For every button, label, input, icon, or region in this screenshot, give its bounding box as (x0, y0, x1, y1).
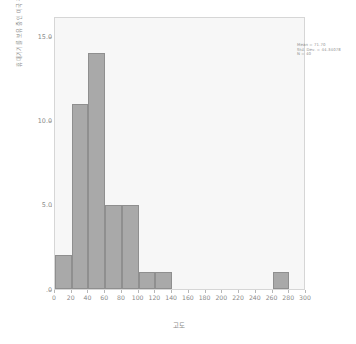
histogram-bar (88, 53, 105, 289)
histogram-chart: 휴대기기를 보유 중인 미국 청소년 수 .05.010.015.0 02040… (0, 0, 356, 344)
x-axis-ticks: 0204060801001201401601802002202402602803… (54, 290, 305, 310)
x-tick-mark (138, 290, 139, 293)
bars-layer (55, 18, 304, 289)
x-tick-label: 280 (282, 294, 294, 302)
x-tick-mark (305, 290, 306, 293)
x-tick-label: 240 (249, 294, 261, 302)
x-tick-label: 40 (84, 294, 92, 302)
x-tick-label: 100 (132, 294, 144, 302)
x-tick-mark (288, 290, 289, 293)
histogram-bar (72, 104, 89, 289)
statistics-annotation: Mean = 71.70 Std. Dev. = 44.34078 N = 40 (297, 43, 349, 57)
histogram-bar (122, 205, 139, 289)
x-tick-label: 20 (67, 294, 75, 302)
stat-n: N = 40 (297, 52, 349, 57)
x-tick-label: 80 (117, 294, 125, 302)
x-tick-label: 140 (165, 294, 177, 302)
x-tick-mark (87, 290, 88, 293)
x-tick-mark (221, 290, 222, 293)
x-tick-label: 180 (199, 294, 211, 302)
x-tick-label: 0 (52, 294, 56, 302)
x-tick-mark (154, 290, 155, 293)
x-tick-mark (104, 290, 105, 293)
y-tick-mark (49, 121, 52, 122)
x-tick-mark (171, 290, 172, 293)
x-tick-label: 120 (148, 294, 160, 302)
plot-area (54, 17, 305, 290)
y-tick-mark (49, 37, 52, 38)
x-tick-mark (121, 290, 122, 293)
y-tick-mark (49, 206, 52, 207)
x-tick-label: 200 (215, 294, 227, 302)
x-tick-mark (188, 290, 189, 293)
x-tick-mark (205, 290, 206, 293)
histogram-bar (155, 272, 172, 289)
x-tick-label: 220 (232, 294, 244, 302)
x-tick-mark (272, 290, 273, 293)
x-tick-label: 160 (182, 294, 194, 302)
x-tick-label: 260 (266, 294, 278, 302)
x-tick-mark (54, 290, 55, 293)
x-tick-mark (238, 290, 239, 293)
histogram-bar (139, 272, 156, 289)
histogram-bar (273, 272, 290, 289)
x-tick-label: 60 (100, 294, 108, 302)
histogram-bar (55, 255, 72, 289)
y-tick-mark (49, 290, 52, 291)
x-tick-label: 300 (299, 294, 311, 302)
histogram-bar (105, 205, 122, 289)
x-tick-mark (71, 290, 72, 293)
y-axis-ticks: .05.010.015.0 (22, 0, 52, 344)
x-axis-title: 고도 (54, 320, 305, 330)
x-tick-mark (255, 290, 256, 293)
